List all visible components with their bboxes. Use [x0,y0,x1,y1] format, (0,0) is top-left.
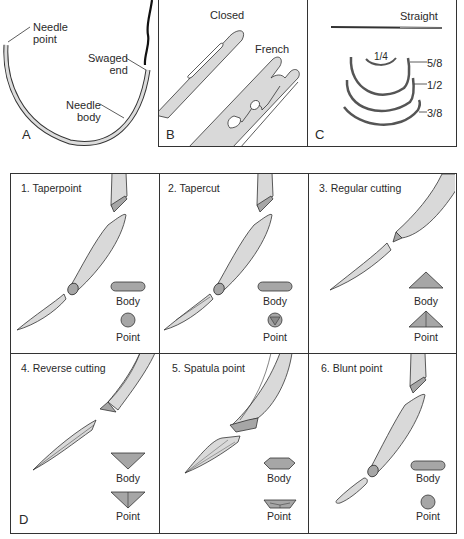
body-cross-section-inverted-triangle-icon [111,453,145,469]
body-label: Body [401,295,451,307]
point-label: Point [401,331,451,343]
taperpoint-title: 1. Taperpoint [21,182,82,194]
body-cross-section-triangle-icon [409,272,443,288]
point-label: Point [403,510,453,522]
spatula-point-title: 5. Spatula point [172,362,245,374]
needle-tip-drawings [0,0,464,539]
blunt-point-title: 6. Blunt point [321,362,382,374]
body-cross-section-hexagon-icon [264,458,295,469]
point-label: Point [103,510,153,522]
point-cross-section-circle-icon [121,313,135,327]
point-label: Point [254,510,304,522]
body-label: Body [103,472,153,484]
body-cross-section-rounded-icon [258,282,292,291]
point-label: Point [103,331,153,343]
body-label: Body [254,472,304,484]
body-label: Body [103,295,153,307]
tapercut-title: 2. Tapercut [168,182,220,194]
reverse-cutting-title: 4. Reverse cutting [21,362,106,374]
body-cross-section-rounded-icon [111,282,145,291]
regular-cutting-title: 3. Regular cutting [319,182,401,194]
body-cross-section-rounded-icon [411,461,445,470]
point-label: Point [250,331,300,343]
body-label: Body [403,472,453,484]
panel-letter-d: D [19,512,28,527]
body-label: Body [250,295,300,307]
point-cross-section-circle-icon [421,495,435,509]
